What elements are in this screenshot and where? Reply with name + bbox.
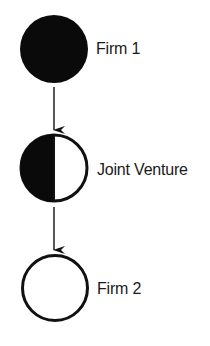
joint-venture-label: Joint Venture xyxy=(97,162,188,178)
firm-1-label: Firm 1 xyxy=(96,41,140,57)
firm-1-circle-icon xyxy=(20,15,88,83)
node-joint-venture xyxy=(21,135,87,202)
joint-venture-dark-half-icon xyxy=(21,135,54,202)
firm-2-label: Firm 2 xyxy=(97,281,141,297)
firm-2-circle-icon xyxy=(23,256,88,321)
node-firm-1 xyxy=(20,15,88,83)
node-firm-2 xyxy=(23,256,88,321)
joint-venture-flow-diagram: Firm 1 Joint Venture Firm 2 xyxy=(0,0,210,346)
